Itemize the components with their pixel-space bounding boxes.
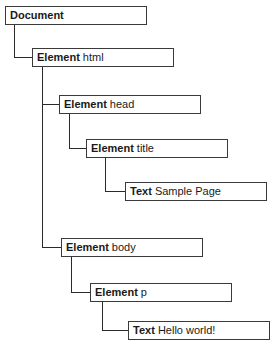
- node-name: Hello world!: [158, 324, 215, 336]
- node-kind: Element: [91, 142, 134, 154]
- node-name: head: [110, 98, 134, 110]
- connector: [14, 24, 15, 57]
- node-element-body: Element body: [61, 238, 203, 257]
- connector: [42, 104, 59, 105]
- connector: [42, 247, 61, 248]
- connector: [102, 330, 128, 331]
- node-document: Document: [5, 6, 147, 25]
- node-kind: Document: [10, 9, 64, 21]
- node-name: title: [137, 142, 154, 154]
- dom-tree-diagram: Document Element html Element head Eleme…: [0, 0, 275, 354]
- node-kind: Element: [66, 241, 109, 253]
- node-element-title: Element title: [86, 139, 228, 158]
- node-element-head: Element head: [59, 95, 201, 114]
- connector: [69, 113, 70, 148]
- connector: [71, 292, 90, 293]
- node-kind: Element: [64, 98, 107, 110]
- node-name: body: [112, 241, 136, 253]
- connector: [105, 191, 125, 192]
- node-text-hello-world: Text Hello world!: [128, 321, 270, 340]
- node-element-html: Element html: [32, 48, 174, 67]
- node-name: Sample Page: [155, 185, 221, 197]
- node-name: p: [141, 286, 147, 298]
- node-kind: Text: [130, 185, 152, 197]
- connector: [14, 57, 32, 58]
- node-element-p: Element p: [90, 283, 232, 302]
- node-name: html: [83, 51, 104, 63]
- connector: [69, 148, 86, 149]
- connector: [42, 66, 43, 247]
- connector: [102, 301, 103, 330]
- connector: [71, 256, 72, 292]
- connector: [105, 157, 106, 191]
- node-kind: Element: [37, 51, 80, 63]
- node-text-sample-page: Text Sample Page: [125, 182, 267, 201]
- node-kind: Element: [95, 286, 138, 298]
- node-kind: Text: [133, 324, 155, 336]
